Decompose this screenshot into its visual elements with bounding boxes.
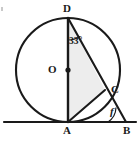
vertex-label-o: O [48,64,57,75]
angle-label-at-b: f [110,106,114,117]
center-point-marker [65,67,70,72]
angle-label-at-d: 33° [69,37,82,47]
vertex-label-c: C [111,84,119,95]
geometry-drawing [0,0,139,141]
geometry-figure: D O C A B 33° f [0,0,139,141]
vertex-label-b: B [123,125,130,136]
vertex-label-a: A [63,125,71,136]
vertex-label-d: D [63,3,71,14]
